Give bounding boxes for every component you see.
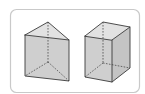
- cube-front-face: [85, 36, 112, 82]
- figure-canvas: [0, 0, 145, 94]
- prism-front-face: [25, 35, 69, 81]
- rectangular-prism: [85, 22, 130, 82]
